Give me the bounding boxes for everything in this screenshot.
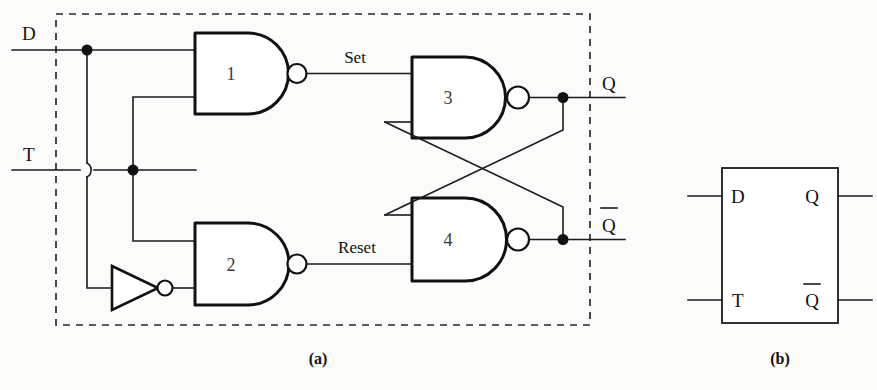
junction-dot-t [128,165,139,176]
wire-d-branch-to-inverter [87,177,112,288]
output-q-label: Q [602,73,616,94]
output-qbar-label: Q [602,215,616,236]
figure-root: 1 Set 2 Reset 3 4 D T Q Q (a) D T Q Q [0,0,877,390]
pin-t-label: T [732,290,744,311]
nand-gate-4-bubble [507,229,529,251]
wire-t-branch-down [133,170,195,241]
wire-hop-crossover [87,163,91,177]
signal-set-label: Set [344,48,366,67]
input-t-label: T [23,144,35,165]
nand-gate-3-bubble [507,87,529,109]
caption-b: (b) [770,350,790,368]
nand-gate-2-label: 2 [227,255,236,275]
inverter-bubble [158,281,173,296]
pin-qbar-label: Q [805,290,819,311]
junction-dot-q [558,92,569,103]
caption-a: (a) [309,350,328,368]
nand-gate-3-label: 3 [444,88,453,108]
nand-gate-4-label: 4 [444,230,453,250]
nand-gate-3 [412,57,506,138]
nand-gate-2 [195,223,289,305]
nand-gate-4 [412,198,506,281]
nand-gate-1 [195,33,289,114]
pin-q-label: Q [805,186,819,207]
nand-gate-2-bubble [288,255,307,274]
junction-dot-d [82,45,93,56]
input-d-label: D [22,23,36,44]
pin-d-label: D [731,186,745,207]
junction-dot-qbar [558,234,569,245]
nand-gate-1-label: 1 [227,64,236,84]
wire-t-branch-up [133,97,195,170]
nand-gate-1-bubble [288,64,307,83]
inverter-gate [112,266,158,310]
signal-reset-label: Reset [338,238,376,257]
